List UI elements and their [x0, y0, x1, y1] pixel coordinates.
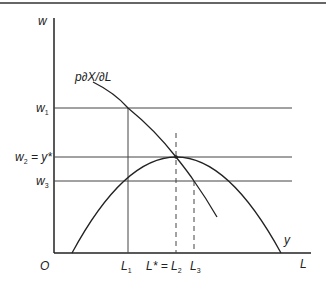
mvp-curve-label: p∂X/∂L [74, 70, 112, 84]
L3-label: L3 [190, 259, 201, 274]
w3-label: w3 [36, 174, 49, 189]
mvp-curve [93, 82, 217, 217]
w2-label: w2 = y* [15, 150, 52, 165]
equilibrium-point [174, 155, 178, 159]
wage-labor-diagram: w O L p∂X/∂L y w1 w2 = y* w3 L1 L* = L2 … [0, 0, 326, 285]
L2-label: L* = L2 [146, 259, 182, 274]
L1-label: L1 [121, 259, 132, 274]
origin-label: O [40, 259, 49, 273]
y-curve-label: y [283, 233, 291, 247]
y-axis-label: w [38, 14, 48, 28]
x-axis-label: L [300, 257, 307, 271]
w1-label: w1 [36, 101, 49, 116]
